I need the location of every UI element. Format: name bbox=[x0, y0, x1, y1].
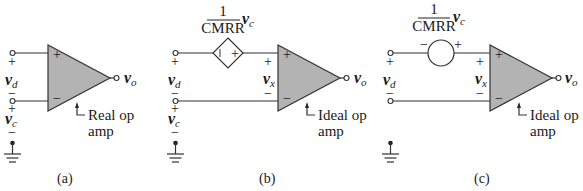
ideal-op-amp-callout-arrow-icon bbox=[517, 102, 527, 115]
gain-numerator: 1 bbox=[430, 1, 438, 17]
op-amp-cmrr-models-diagram: + − vo + vd − + vc − Real op amp (a) bbox=[0, 0, 583, 191]
caption-b: (b) bbox=[259, 171, 276, 187]
ideal-op-amp-label-line1: Ideal op bbox=[318, 107, 367, 123]
real-op-amp-label-line1: Real op bbox=[88, 107, 134, 123]
vx-plus-sign: + bbox=[476, 54, 484, 69]
vc-minus-sign: − bbox=[171, 125, 179, 140]
ground-icon bbox=[4, 141, 21, 162]
output-terminal bbox=[344, 76, 349, 81]
ground-icon bbox=[382, 141, 399, 162]
opamp-plus-sign: + bbox=[53, 47, 61, 62]
opamp-minus-sign: − bbox=[283, 91, 291, 106]
opamp-plus-sign: + bbox=[283, 47, 291, 62]
vx-minus-sign: − bbox=[264, 86, 272, 101]
ground-icon bbox=[167, 141, 184, 162]
vo-label: vo bbox=[124, 69, 137, 88]
panel-a-real-op-amp: + − vo + vd − + vc − Real op amp (a) bbox=[4, 45, 137, 187]
ideal-op-amp-label-line1: Ideal op bbox=[530, 107, 579, 123]
opamp-plus-sign: + bbox=[495, 47, 503, 62]
source-minus-sign: − bbox=[420, 37, 428, 52]
real-op-amp-callout-arrow-icon bbox=[75, 102, 85, 115]
vc-minus-sign: − bbox=[8, 125, 16, 140]
vx-plus-sign: + bbox=[264, 54, 272, 69]
gain-numerator: 1 bbox=[219, 3, 227, 19]
panel-b-ideal-with-dependent-source: 1 CMRR vc + + − + vx − vo + vd − + vc − bbox=[167, 3, 367, 187]
output-terminal bbox=[114, 76, 119, 81]
gain-vc-label: vc bbox=[242, 10, 254, 29]
opamp-minus-sign: − bbox=[495, 91, 503, 106]
ideal-op-amp-label-line2: amp bbox=[530, 123, 556, 139]
ideal-op-amp-callout-arrow-icon bbox=[305, 102, 315, 115]
gain-denominator-cmrr: CMRR bbox=[201, 20, 244, 36]
panel-c-ideal-with-independent-source: 1 CMRR vc − + + − + vx − vo + vd − bbox=[382, 1, 579, 187]
ideal-op-amp-label-line2: amp bbox=[318, 123, 344, 139]
vo-label: vo bbox=[565, 69, 578, 88]
source-plus-sign: + bbox=[231, 46, 239, 61]
caption-a: (a) bbox=[57, 171, 73, 187]
opamp-minus-sign: − bbox=[53, 91, 61, 106]
gain-vc-label: vc bbox=[453, 8, 465, 27]
vx-minus-sign: − bbox=[476, 86, 484, 101]
vo-label: vo bbox=[354, 69, 367, 88]
independent-voltage-source-icon bbox=[428, 40, 454, 66]
source-plus-sign: + bbox=[454, 37, 462, 52]
vd-minus-terminal bbox=[388, 99, 393, 104]
gain-denominator-cmrr: CMRR bbox=[412, 18, 455, 34]
vd-plus-sign: + bbox=[386, 54, 394, 69]
caption-c: (c) bbox=[474, 171, 490, 187]
vd-plus-sign: + bbox=[8, 54, 16, 69]
vd-plus-sign: + bbox=[171, 54, 179, 69]
real-op-amp-label-line2: amp bbox=[88, 123, 114, 139]
output-terminal bbox=[556, 76, 561, 81]
